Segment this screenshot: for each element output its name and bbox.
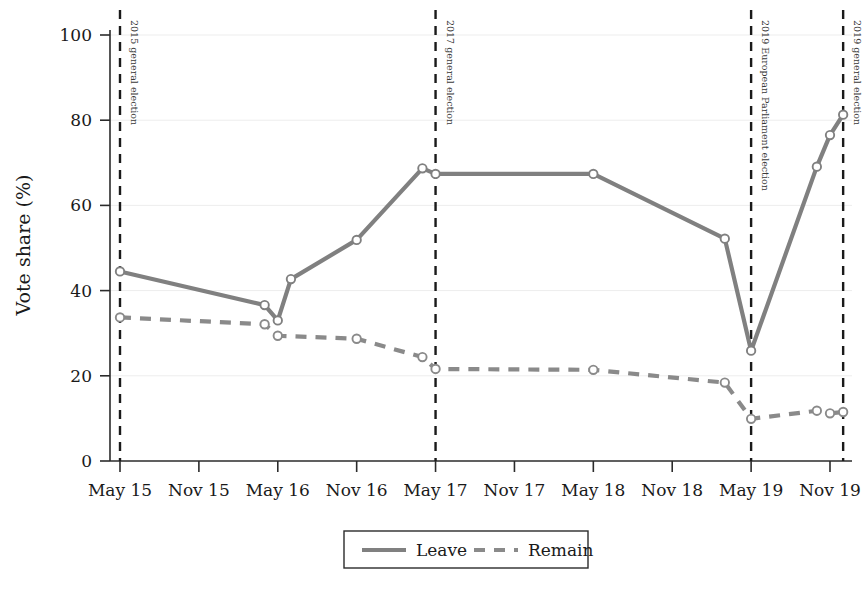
data-point-marker: [260, 320, 268, 328]
event-vline-label: 2019 European Parliament election: [760, 20, 771, 191]
data-point-marker: [721, 234, 729, 242]
y-tick-label: 80: [70, 110, 92, 130]
data-point-marker: [431, 170, 439, 178]
data-point-marker: [826, 131, 834, 139]
data-point-marker: [747, 346, 755, 354]
data-point-marker: [418, 164, 426, 172]
data-point-marker: [747, 415, 755, 423]
data-point-marker: [813, 162, 821, 170]
x-tick-label: Nov 18: [641, 480, 703, 500]
data-point-marker: [721, 378, 729, 386]
event-vline-label: 2019 general election: [852, 20, 863, 125]
chart-container: 020406080100 May 15Nov 15May 16Nov 16May…: [0, 0, 863, 593]
x-tick-label: May 18: [561, 480, 625, 500]
y-axis-title: Vote share (%): [12, 175, 34, 317]
y-tick-label: 40: [70, 281, 92, 301]
data-point-marker: [813, 407, 821, 415]
x-tick-label: May 17: [403, 480, 467, 500]
event-vline-label: 2015 general election: [129, 20, 140, 125]
event-vline-label: 2017 general election: [445, 20, 456, 125]
data-point-marker: [418, 353, 426, 361]
data-point-marker: [589, 170, 597, 178]
data-point-marker: [352, 335, 360, 343]
x-tick-label: May 19: [719, 480, 783, 500]
legend-label-remain: Remain: [528, 540, 594, 560]
data-point-marker: [431, 365, 439, 373]
y-tick-label: 100: [60, 25, 92, 45]
x-tick-label: May 16: [246, 480, 310, 500]
data-point-marker: [839, 408, 847, 416]
data-point-marker: [260, 301, 268, 309]
x-tick-label: May 15: [88, 480, 152, 500]
legend-label-leave: Leave: [416, 540, 467, 560]
data-point-marker: [274, 316, 282, 324]
data-point-marker: [274, 332, 282, 340]
data-point-marker: [826, 409, 834, 417]
x-tick-label: Nov 16: [326, 480, 388, 500]
x-tick-label: Nov 15: [168, 480, 230, 500]
vote-share-line-chart: 020406080100 May 15Nov 15May 16Nov 16May…: [0, 0, 863, 593]
y-tick-label: 60: [70, 195, 92, 215]
legend: LeaveRemain: [344, 531, 594, 568]
data-point-marker: [116, 267, 124, 275]
x-tick-label: Nov 17: [484, 480, 546, 500]
data-point-marker: [352, 236, 360, 244]
y-tick-label: 20: [70, 366, 92, 386]
y-tick-label: 0: [81, 451, 92, 471]
data-point-marker: [839, 110, 847, 118]
x-tick-label: Nov 19: [799, 480, 861, 500]
data-point-marker: [116, 313, 124, 321]
data-point-marker: [287, 275, 295, 283]
data-point-marker: [589, 366, 597, 374]
